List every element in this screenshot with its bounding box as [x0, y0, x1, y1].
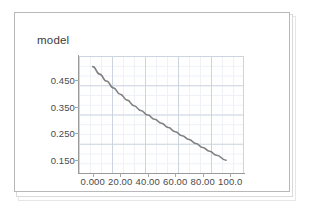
x-tick-mark: [203, 173, 204, 177]
x-tick-label: 40.00: [136, 176, 160, 187]
y-axis-line: [78, 55, 79, 174]
chart-panel: model 0.4500.3500.2500.150 0.00020.0040.…: [14, 12, 290, 192]
x-tick-mark: [93, 173, 94, 177]
x-tick-label: 100.0: [218, 176, 242, 187]
x-tick-mark: [230, 173, 231, 177]
chart-screenshot: model 0.4500.3500.2500.150 0.00020.0040.…: [0, 0, 309, 213]
x-axis-line: [78, 173, 245, 174]
x-tick-label: 80.00: [191, 176, 215, 187]
x-axis-tick-labels: 0.00020.0040.0060.0080.00100.0: [65, 176, 265, 192]
y-tick-label: 0.350: [51, 101, 75, 112]
x-tick-label: 20.00: [108, 176, 132, 187]
y-tick-label: 0.450: [51, 74, 75, 85]
x-tick-mark: [175, 173, 176, 177]
x-tick-label: 60.00: [163, 176, 187, 187]
y-tick-label: 0.250: [51, 128, 75, 139]
x-tick-label: 0.000: [81, 176, 105, 187]
y-tick-mark: [75, 160, 79, 161]
series-line-model: [79, 56, 244, 173]
y-tick-label: 0.150: [51, 154, 75, 165]
y-tick-mark: [75, 107, 79, 108]
y-tick-mark: [75, 80, 79, 81]
y-axis-tick-labels: 0.4500.3500.2500.150: [33, 13, 75, 193]
x-tick-mark: [148, 173, 149, 177]
x-tick-mark: [120, 173, 121, 177]
y-tick-mark: [75, 133, 79, 134]
plot-area: [79, 56, 244, 173]
